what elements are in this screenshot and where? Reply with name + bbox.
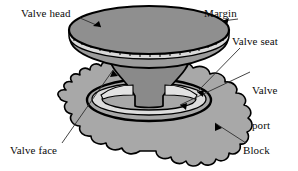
label-valve-seat: Valve seat xyxy=(232,36,278,48)
diagram-page: Valve head Margin Valve seat Valve port … xyxy=(0,0,298,171)
label-valve-port-line1: Valve xyxy=(252,85,278,97)
label-valve-port: Valve port xyxy=(252,62,278,154)
label-valve-port-line2: port xyxy=(252,120,278,132)
label-block: Block xyxy=(243,145,270,157)
label-valve-face: Valve face xyxy=(10,145,57,157)
label-valve-head: Valve head xyxy=(21,8,71,20)
label-margin: Margin xyxy=(204,8,237,20)
